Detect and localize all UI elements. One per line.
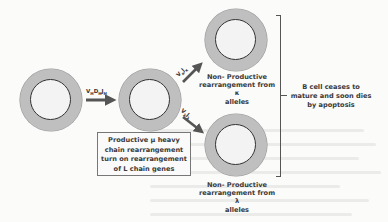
label-vdj-heavy: VHDHJH: [86, 88, 107, 96]
apoptosis-outcome-text: B cell ceases to mature and soon dies by…: [288, 83, 374, 110]
box-line: Productive μ heavy: [98, 136, 190, 146]
caption-line: Non- Productive: [196, 73, 278, 81]
outcome-line: by apoptosis: [288, 101, 374, 110]
outcome-line: mature and soon dies: [288, 92, 374, 101]
kappa-nonproductive-caption: Non- Productive rearrangement from κ all…: [196, 73, 278, 106]
box-line: turn on rearrangement: [98, 155, 190, 165]
box-line: chain rearrangement: [98, 146, 190, 156]
caption-line: alleles: [196, 98, 278, 106]
caption-line: rearrangement from κ: [196, 81, 278, 97]
arrows-layer: [0, 0, 388, 222]
productive-heavy-chain-box: Productive μ heavy chain rearrangement t…: [97, 132, 191, 176]
bracket-tick: [281, 95, 287, 96]
caption-line: alleles: [196, 206, 278, 214]
outcome-line: B cell ceases to: [288, 83, 374, 92]
caption-line: Non- Productive: [196, 181, 278, 189]
caption-line: rearrangement from λ: [196, 189, 278, 205]
box-line: of L chain genes: [98, 165, 190, 175]
lambda-nonproductive-caption: Non- Productive rearrangement from λ all…: [196, 181, 278, 214]
